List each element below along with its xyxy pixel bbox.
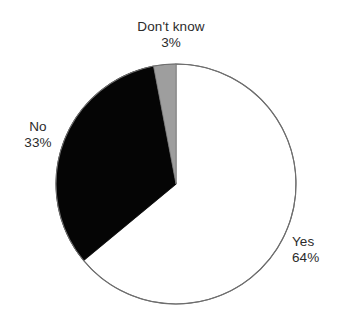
- pie-label-no-name: No: [8, 119, 68, 135]
- pie-label-dont-know-value: 3%: [4, 35, 338, 51]
- pie-label-no: No 33%: [8, 119, 68, 151]
- pie-label-no-value: 33%: [8, 135, 68, 151]
- pie-chart-figure: Don't know 3% No 33% Yes 64%: [0, 0, 338, 330]
- pie-label-yes-value: 64%: [292, 250, 338, 266]
- pie-label-dont-know-name: Don't know: [4, 19, 338, 35]
- pie-label-yes-name: Yes: [292, 234, 338, 250]
- pie-label-dont-know: Don't know 3%: [0, 19, 338, 51]
- pie-label-yes: Yes 64%: [292, 234, 338, 266]
